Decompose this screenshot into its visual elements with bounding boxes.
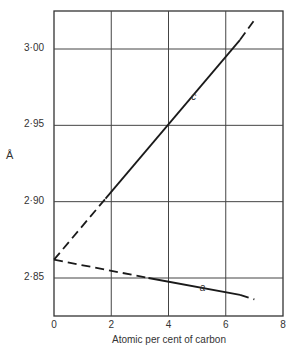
series-label-c: c — [191, 91, 196, 102]
series-c-solid — [106, 40, 241, 199]
series-a-dashed — [54, 260, 148, 278]
series-c-dashed — [54, 199, 106, 260]
x-tick-label: 8 — [275, 319, 291, 330]
series-label-a: a — [200, 282, 206, 293]
series-a-solid — [148, 278, 240, 295]
y-tick-label: 3·00 — [8, 42, 44, 53]
x-axis-label: Atomic per cent of carbon — [112, 334, 226, 345]
x-tick-label: 0 — [46, 319, 62, 330]
grid — [54, 11, 283, 316]
series-lines — [54, 20, 254, 299]
y-tick-label: 2·90 — [8, 195, 44, 206]
x-tick-label: 6 — [218, 319, 234, 330]
series-c-dashed — [240, 20, 254, 40]
y-tick-label: 2·85 — [8, 271, 44, 282]
series-a-dashed — [240, 295, 254, 300]
y-axis-label: Å — [6, 149, 13, 161]
x-tick-label: 2 — [103, 319, 119, 330]
y-tick-label: 2·95 — [8, 118, 44, 129]
x-tick-label: 4 — [161, 319, 177, 330]
